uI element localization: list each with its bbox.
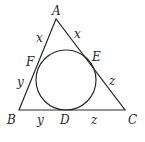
- incircle: [36, 50, 96, 110]
- segment-label-ae: x: [74, 27, 81, 41]
- segment-label-bf: y: [16, 75, 24, 89]
- vertex-label-a: A: [51, 4, 61, 18]
- segment-label-af: x: [36, 31, 43, 45]
- tangent-label-e: E: [91, 50, 101, 64]
- triangle-abc: [19, 19, 125, 110]
- segment-label-cd: z: [90, 113, 98, 127]
- tangent-label-d: D: [59, 113, 70, 127]
- vertex-label-b: B: [6, 113, 16, 127]
- segment-label-bd: y: [36, 113, 44, 127]
- vertex-label-c: C: [128, 113, 137, 127]
- segment-label-ce: z: [108, 74, 116, 88]
- incircle-diagram: A B C D E F x x y y z z: [0, 0, 145, 142]
- tangent-label-f: F: [25, 55, 35, 69]
